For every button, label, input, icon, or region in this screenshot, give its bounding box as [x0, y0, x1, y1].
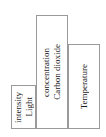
bar-label-carbon-dioxide-line-1: Carbon dioxide — [52, 44, 63, 100]
bar-carbon-dioxide-concentration[interactable]: Carbon dioxide concentration — [36, 15, 68, 129]
bar-label-light-intensity-line-2: intensity — [13, 92, 24, 123]
bar-temperature[interactable]: Temperature — [68, 44, 100, 129]
bar-label-carbon-dioxide-line-2: concentration — [41, 48, 52, 97]
bar-label-temperature: Temperature — [69, 45, 99, 128]
bar-label-light-intensity: Light intensity — [12, 86, 35, 128]
bar-label-light-intensity-line-1: Light — [24, 97, 35, 117]
bar-light-intensity[interactable]: Light intensity — [11, 85, 36, 129]
bar-chart: Light intensity Carbon dioxide concentra… — [0, 0, 106, 137]
bar-label-carbon-dioxide-concentration: Carbon dioxide concentration — [37, 16, 67, 128]
bar-label-temperature-line-1: Temperature — [79, 64, 90, 109]
